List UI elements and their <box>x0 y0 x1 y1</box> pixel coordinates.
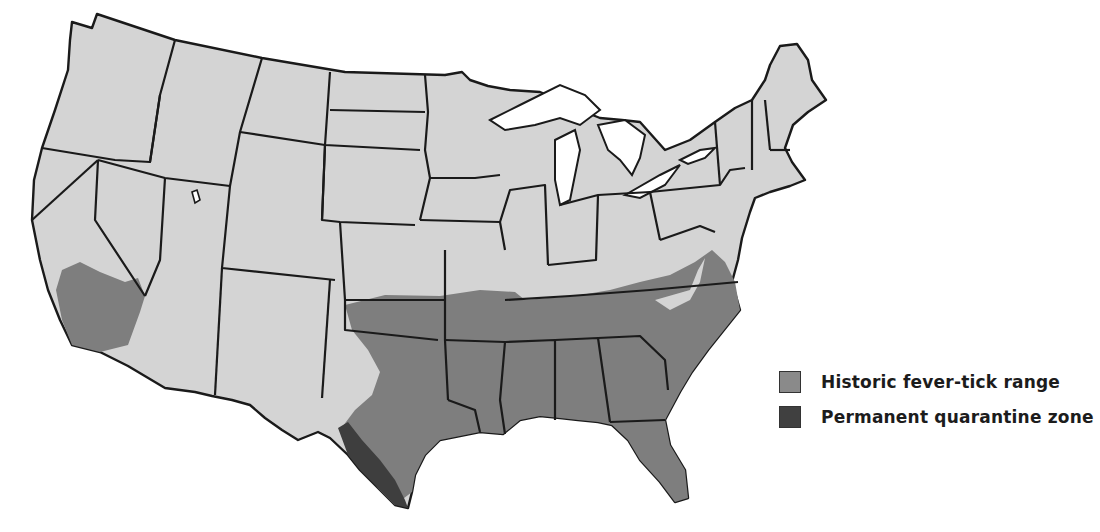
legend-item-quarantine-zone: Permanent quarantine zone <box>779 402 1094 432</box>
legend: Historic fever-tick range Permanent quar… <box>779 367 1094 437</box>
legend-item-historic-range: Historic fever-tick range <box>779 367 1094 397</box>
legend-label-quarantine-zone: Permanent quarantine zone <box>821 407 1094 427</box>
us-map <box>0 0 1100 532</box>
legend-label-historic-range: Historic fever-tick range <box>821 372 1060 392</box>
historic-range-swatch <box>779 371 801 393</box>
quarantine-zone-swatch <box>779 406 801 428</box>
